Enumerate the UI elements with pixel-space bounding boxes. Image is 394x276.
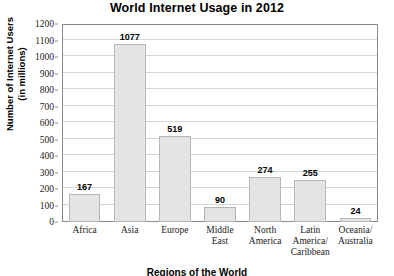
y-axis-tick-mark — [55, 106, 58, 107]
y-axis-tick-label: 200 — [40, 184, 54, 194]
y-axis-tick-label: 100 — [40, 201, 54, 211]
y-axis-tick-labels: 0100200300400500600700800900100011001200 — [20, 24, 58, 222]
y-axis-tick-label: 500 — [40, 135, 54, 145]
x-axis-title: Regions of the World — [0, 267, 394, 276]
bar-slot: 167 — [62, 24, 107, 222]
x-axis-tick-label-line: America/ — [288, 236, 333, 247]
bar-value-label: 1077 — [107, 32, 152, 42]
bar-chart: World Internet Usage in 2012 Number of I… — [0, 0, 394, 276]
bar-value-label: 24 — [333, 206, 378, 216]
y-axis-tick-mark — [55, 156, 58, 157]
y-axis-tick-label: 300 — [40, 168, 54, 178]
y-axis-tick-label: 600 — [40, 118, 54, 128]
x-axis-tick-label-line: Middle — [197, 225, 242, 236]
x-axis-tick-label-line: East — [197, 236, 242, 247]
x-axis-tick-label: NorthAmerica — [243, 225, 288, 247]
y-axis-tick-mark — [55, 123, 58, 124]
bar-slot: 274 — [243, 24, 288, 222]
x-axis-tick-label: LatinAmerica/Caribbean — [288, 225, 333, 258]
bar-slot: 90 — [197, 24, 242, 222]
bar-slot: 519 — [152, 24, 197, 222]
y-axis-tick-label: 800 — [40, 85, 54, 95]
y-axis-tick-mark — [55, 172, 58, 173]
bar-slot: 24 — [333, 24, 378, 222]
x-axis-tick-label-line: Oceania/ — [333, 225, 378, 236]
y-axis-tick-mark — [55, 24, 58, 25]
y-axis-tick-mark — [55, 189, 58, 190]
y-axis-tick-mark — [55, 90, 58, 91]
y-axis-tick-mark — [55, 40, 58, 41]
bar-slot: 1077 — [107, 24, 152, 222]
y-axis-title-line-1: Number of Internet Users — [4, 0, 16, 154]
bar-value-label: 519 — [152, 124, 197, 134]
bar — [340, 218, 372, 222]
x-axis-tick-label: Asia — [107, 225, 152, 236]
y-axis-tick-label: 900 — [40, 69, 54, 79]
x-axis-tick-label: Europe — [152, 225, 197, 236]
bar — [159, 136, 191, 222]
bar-value-label: 90 — [197, 195, 242, 205]
y-axis-tick-mark — [55, 205, 58, 206]
bar-value-label: 255 — [288, 168, 333, 178]
x-axis-tick-label: MiddleEast — [197, 225, 242, 247]
y-axis-tick-mark — [55, 57, 58, 58]
y-axis-tick-label: 1200 — [35, 19, 54, 29]
chart-title: World Internet Usage in 2012 — [0, 1, 394, 15]
bar — [204, 207, 236, 222]
bar-value-label: 167 — [62, 182, 107, 192]
bars-layer: 16710775199027425524 — [62, 24, 378, 222]
x-axis-tick-label-line: Asia — [107, 225, 152, 236]
y-axis-tick-label: 1100 — [35, 36, 54, 46]
x-axis-tick-label-line: North — [243, 225, 288, 236]
x-axis-tick-label-line: Australia — [333, 236, 378, 247]
bar — [69, 194, 101, 222]
y-axis-tick-label: 700 — [40, 102, 54, 112]
bar-slot: 255 — [288, 24, 333, 222]
bar-value-label: 274 — [243, 165, 288, 175]
y-axis-tick-label: 400 — [40, 151, 54, 161]
x-axis-tick-label: Africa — [62, 225, 107, 236]
bar — [294, 180, 326, 222]
x-axis-tick-labels: AfricaAsiaEuropeMiddleEastNorthAmericaLa… — [62, 225, 378, 265]
x-axis-tick-label-line: America — [243, 236, 288, 247]
y-axis-tick-mark — [55, 222, 58, 223]
x-axis-tick-label-line: Africa — [62, 225, 107, 236]
bar — [249, 177, 281, 222]
x-axis-tick-label: Oceania/Australia — [333, 225, 378, 247]
y-axis-tick-label: 0 — [49, 217, 54, 227]
y-axis-tick-mark — [55, 73, 58, 74]
y-axis-tick-mark — [55, 139, 58, 140]
y-axis-tick-label: 1000 — [35, 52, 54, 62]
x-axis-tick-label-line: Europe — [152, 225, 197, 236]
x-axis-tick-label-line: Latin — [288, 225, 333, 236]
x-axis-tick-label-line: Caribbean — [288, 247, 333, 258]
bar — [114, 44, 146, 222]
